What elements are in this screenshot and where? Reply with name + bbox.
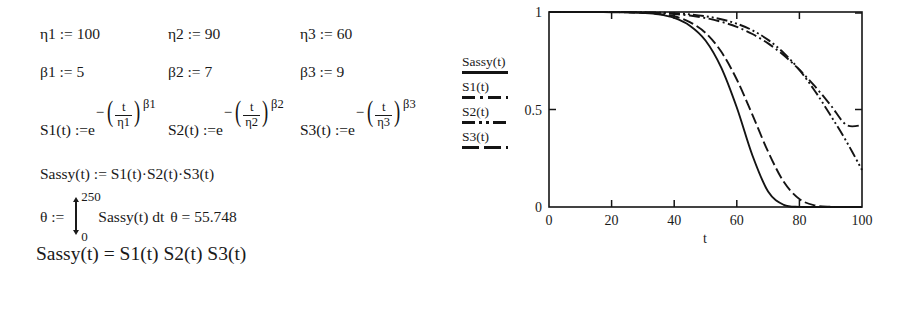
- s2-denominator: η2: [243, 115, 260, 130]
- x-tick-label: 60: [730, 213, 744, 228]
- s3-numerator: t: [375, 101, 392, 115]
- s2-base: e: [216, 121, 223, 138]
- s2-numerator: t: [243, 101, 260, 115]
- sassy-definition: Sassy(t) := S1(t)·S2(t)·S3(t): [40, 166, 214, 182]
- x-tick-label: 80: [792, 213, 806, 228]
- beta2-definition: β2 := 7: [168, 64, 212, 80]
- x-tick-label: 100: [852, 213, 873, 228]
- beta1-definition: β1 := 5: [40, 64, 84, 80]
- s3-exponent-group: −(tη3)β3: [356, 102, 416, 130]
- s1-exponent-group: −(tη1)β1: [96, 102, 156, 130]
- s1-definition: S1(t) :=e−(tη1)β1: [40, 118, 156, 146]
- s3-definition: S3(t) :=e−(tη3)β3: [300, 118, 416, 146]
- integral-bottom-tip: [73, 230, 79, 235]
- series-line-s2t: [549, 12, 862, 170]
- s3-power: β3: [403, 97, 416, 112]
- eta3-definition: η3 := 60: [300, 26, 352, 42]
- x-tick-label: 20: [605, 213, 619, 228]
- s3-denominator: η3: [375, 115, 392, 130]
- s3-fraction: tη3: [375, 101, 392, 129]
- y-tick-label: 0.5: [525, 103, 543, 118]
- chart-svg: 02040608010000.51 t: [460, 0, 904, 333]
- integral-stroke: [75, 199, 77, 233]
- minus-icon: −: [224, 104, 232, 120]
- s2-fraction: tη2: [243, 101, 260, 129]
- chart-panel: Sassy(t) S1(t) S2(t) S3(t) 0204060801000…: [460, 0, 904, 333]
- chart-series: [549, 12, 862, 207]
- s2-definition: S2(t) :=e−(tη2)β2: [168, 118, 284, 146]
- integral-icon: 250 0: [68, 196, 84, 236]
- x-tick-label: 0: [546, 213, 553, 228]
- y-tick-label: 1: [535, 5, 542, 20]
- x-tick-label: 40: [667, 213, 681, 228]
- eta2-definition: η2 := 90: [168, 26, 220, 42]
- y-tick-label: 0: [535, 200, 542, 215]
- integral-upper-limit: 250: [81, 190, 101, 203]
- final-expression: Sassy(t) = S1(t) S2(t) S3(t): [36, 244, 246, 264]
- worksheet-panel: η1 := 100 η2 := 90 η3 := 60 β1 := 5 β2 :…: [0, 0, 460, 333]
- s3-lhs: S3(t) :=: [300, 121, 348, 138]
- s1-power: β1: [143, 97, 156, 112]
- minus-icon: −: [356, 104, 364, 120]
- integral-lower-limit: 0: [81, 230, 88, 243]
- beta3-definition: β3 := 9: [300, 64, 344, 80]
- minus-icon: −: [96, 104, 104, 120]
- s2-lhs: S2(t) :=: [168, 121, 216, 138]
- s1-fraction: tη1: [115, 101, 132, 129]
- s2-power: β2: [271, 97, 284, 112]
- axis-tick-labels: 02040608010000.51: [525, 5, 873, 228]
- series-line-s1t: [549, 12, 862, 126]
- theta-integral-expression: θ := 250 0 Sassy(t) dt θ = 55.748: [40, 196, 237, 236]
- series-line-sassyt: [549, 12, 862, 207]
- x-axis-title: t: [703, 231, 707, 246]
- theta-integral-row: θ := 250 0 Sassy(t) dt θ = 55.748: [40, 196, 237, 236]
- s1-numerator: t: [115, 101, 132, 115]
- s3-base: e: [348, 121, 355, 138]
- s1-base: e: [88, 121, 95, 138]
- integrand: Sassy(t) dt: [98, 209, 164, 225]
- theta-result: θ = 55.748: [170, 209, 237, 225]
- s1-lhs: S1(t) :=: [40, 121, 88, 138]
- theta-lhs: θ :=: [40, 209, 64, 225]
- s2-exponent-group: −(tη2)β2: [224, 102, 284, 130]
- eta1-definition: η1 := 100: [40, 26, 100, 42]
- s1-denominator: η1: [115, 115, 132, 130]
